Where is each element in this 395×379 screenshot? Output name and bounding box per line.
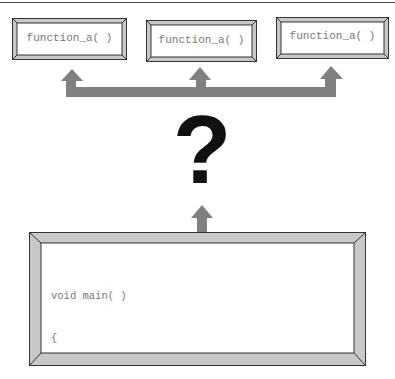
code-line: { [51, 331, 323, 345]
question-mark: ? [170, 104, 234, 196]
arrow-up-icon [191, 205, 213, 233]
code-line: void main( ) [51, 289, 323, 303]
code-line: ... [51, 373, 323, 379]
code-listing: void main( ) { ... function_a( ); // Whi… [51, 261, 323, 379]
